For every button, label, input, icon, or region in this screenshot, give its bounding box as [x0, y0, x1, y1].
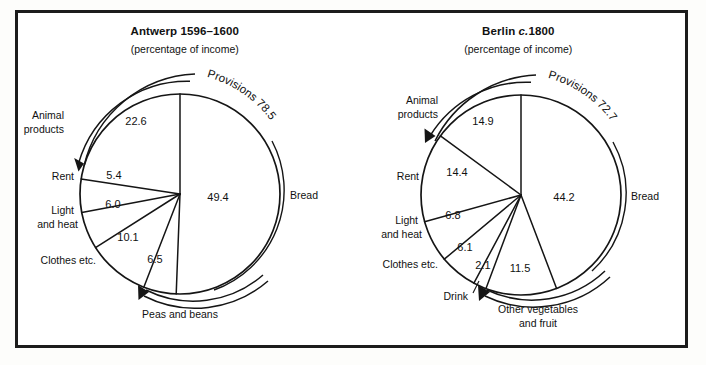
animal-products-label-berlin-line1: Animal: [405, 94, 437, 106]
other-vegetables-label-berlin-line2: and fruit: [519, 317, 557, 329]
pie-value-antwerp-clothes: 10.1: [117, 231, 138, 243]
clothes-label-antwerp: Clothes etc.: [41, 254, 96, 266]
bread-label-antwerp: Bread: [290, 189, 318, 201]
light-heat-label-berlin-line1: Light: [395, 214, 418, 226]
pie-value-berlin-drink: 2.1: [475, 259, 490, 271]
pie-value-berlin-light: 6.8: [445, 209, 460, 221]
rent-label-berlin: Rent: [396, 170, 418, 182]
chart-panel-berlin: Berlin c.1800 (percentage of income): [352, 13, 686, 345]
pie-value-berlin-rent: 14.4: [446, 166, 467, 178]
pie-value-antwerp-peas: 6.5: [147, 253, 162, 265]
figure-frame: Antwerp 1596–1600 (percentage of income): [15, 10, 688, 348]
drink-label-berlin: Drink: [443, 290, 468, 302]
light-heat-label-antwerp-line1: Light: [51, 204, 74, 216]
other-vegetables-label-berlin-line1: Other vegetables: [498, 303, 578, 315]
pie-value-berlin-bread: 44.2: [553, 191, 574, 203]
rent-label-antwerp: Rent: [52, 170, 74, 182]
pie-value-antwerp-bread: 49.4: [207, 191, 228, 203]
pie-svg-antwerp: 49.4 6.5 10.1 6.0 5.4 22.6 Provisions 78…: [18, 13, 358, 351]
pie-value-berlin-animal: 14.9: [472, 115, 493, 127]
pie-value-berlin-clothes: 6.1: [457, 241, 472, 253]
pie-value-antwerp-animal: 22.6: [125, 115, 146, 127]
chart-panel-antwerp: Antwerp 1596–1600 (percentage of income): [18, 13, 352, 345]
pie-value-antwerp-rent: 5.4: [106, 169, 121, 181]
pie-svg-berlin: 44.2 11.5 2.1 6.1 6.8 14.4 14.9 Provisio…: [352, 13, 692, 351]
light-heat-label-berlin-line2: and heat: [381, 228, 422, 240]
figure-canvas: Antwerp 1596–1600 (percentage of income): [0, 0, 706, 365]
bread-label-berlin: Bread: [631, 190, 659, 202]
peas-beans-label-antwerp: Peas and beans: [142, 308, 218, 320]
light-heat-label-antwerp-line2: and heat: [37, 218, 78, 230]
animal-products-label-antwerp-line2: products: [24, 123, 64, 135]
pie-value-antwerp-light: 6.0: [105, 198, 120, 210]
animal-products-label-antwerp-line1: Animal: [32, 109, 64, 121]
pie-value-berlin-otherveg: 11.5: [509, 262, 530, 274]
clothes-label-berlin: Clothes etc.: [382, 258, 437, 270]
animal-products-label-berlin-line2: products: [397, 108, 437, 120]
